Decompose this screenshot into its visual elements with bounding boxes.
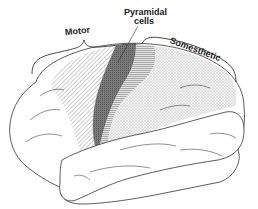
brain-diagram — [0, 0, 258, 209]
pyramidal-cells-label: Pyramidal cells — [124, 8, 164, 26]
pyramidal-label-line2: cells — [124, 17, 164, 26]
